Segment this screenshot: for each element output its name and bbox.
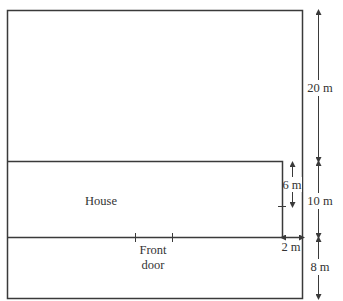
garden-plan-diagram: 20 m 10 m 8 m 6 m 2 m House Front door — [0, 0, 343, 301]
house-label: House — [85, 194, 117, 208]
dimension-label-8m: 8 m — [310, 260, 329, 274]
dimension-label-2m: 2 m — [281, 240, 300, 254]
dimension-label-20m: 20 m — [307, 81, 333, 95]
house-outline — [8, 162, 283, 238]
front-door-label-line2: door — [142, 258, 166, 272]
dimension-label-6m: 6 m — [282, 178, 301, 192]
front-door-label-line1: Front — [139, 243, 167, 257]
dimension-label-10m: 10 m — [307, 194, 333, 208]
